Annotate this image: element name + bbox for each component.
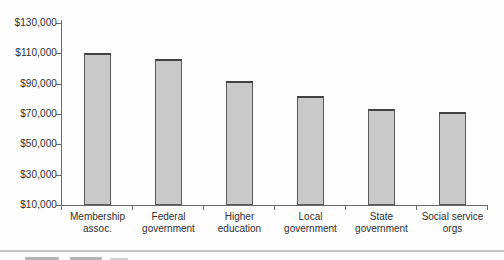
category-label-line: government: [343, 223, 420, 235]
bar-membership-assoc: [84, 53, 111, 205]
x-tick-mark: [203, 205, 204, 210]
category-label-line: government: [130, 223, 207, 235]
x-tick-mark: [416, 205, 417, 210]
bar-social-service-orgs: [439, 112, 466, 205]
category-label-line: assoc.: [59, 223, 136, 235]
x-tick-mark: [345, 205, 346, 210]
category-label: Stategovernment: [343, 211, 420, 234]
category-label-line: Membership: [59, 211, 136, 223]
bar-higher-education: [226, 81, 253, 205]
category-label: Highereducation: [201, 211, 278, 234]
y-axis-tick-label: $130,000: [0, 17, 57, 29]
y-axis-tick-label: $30,000: [0, 169, 57, 181]
category-label-line: Federal: [130, 211, 207, 223]
x-tick-mark: [487, 205, 488, 210]
y-axis-tick-label: $50,000: [0, 138, 57, 150]
x-tick-mark: [274, 205, 275, 210]
category-label-line: Local: [272, 211, 349, 223]
bar-federal-government: [155, 59, 182, 205]
category-label: Federalgovernment: [130, 211, 207, 234]
category-label-line: education: [201, 223, 278, 235]
x-tick-mark: [61, 205, 62, 210]
y-axis-tick-label: $90,000: [0, 78, 57, 90]
bar-chart: $10,000$30,000$50,000$70,000$90,000$110,…: [0, 0, 504, 260]
category-label: Membershipassoc.: [59, 211, 136, 234]
category-label-line: orgs: [414, 223, 491, 235]
bar-state-government: [368, 109, 395, 205]
category-label-line: Social service: [414, 211, 491, 223]
category-label: Social serviceorgs: [414, 211, 491, 234]
bar-local-government: [297, 96, 324, 205]
figure-bottom-rule: [0, 250, 504, 252]
y-axis-tick-label: $110,000: [0, 47, 57, 59]
y-axis-tick-label: $10,000: [0, 199, 57, 211]
category-label: Localgovernment: [272, 211, 349, 234]
category-label-line: State: [343, 211, 420, 223]
category-label-line: Higher: [201, 211, 278, 223]
category-label-line: government: [272, 223, 349, 235]
x-tick-mark: [132, 205, 133, 210]
y-axis-tick-label: $70,000: [0, 108, 57, 120]
scanned-bar-chart-figure: $10,000$30,000$50,000$70,000$90,000$110,…: [0, 0, 504, 260]
y-axis-line: [61, 20, 62, 206]
